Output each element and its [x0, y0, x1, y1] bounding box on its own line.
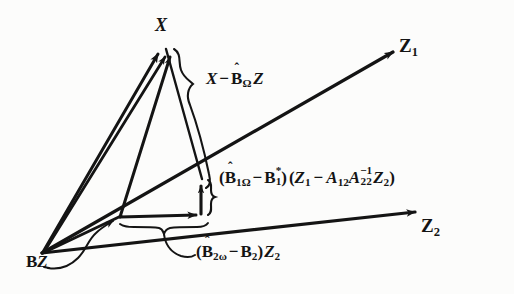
- p1-beta1-sub: 1Ω: [236, 176, 251, 188]
- label-origin-bz: BZ: [26, 253, 48, 270]
- z2-projection-brace: [120, 223, 208, 234]
- p2-minus: −: [229, 242, 239, 261]
- p1-a22: A: [349, 168, 360, 187]
- apex-x-text: X: [155, 15, 167, 35]
- residual-z: Z: [253, 69, 263, 88]
- p1-a22-supsub: −122: [360, 165, 372, 186]
- p1-minus: −: [253, 168, 263, 187]
- axis-z2-text: Z: [421, 215, 434, 236]
- edge-x-to-z1foot: [166, 49, 202, 179]
- p1-beta2: B: [264, 168, 275, 187]
- p1-a22-sub: 22: [360, 176, 372, 187]
- label-z2-projection: (ˆB2ω−B2)Z2: [196, 243, 280, 263]
- p2-z: Z: [264, 242, 274, 261]
- origin-z-text: Z: [37, 252, 47, 271]
- p2-beta2: B: [241, 242, 252, 261]
- p1-close-paren-2: ): [389, 168, 395, 187]
- p2-beta1-hat-group: ˆB: [202, 243, 213, 260]
- axis-z2-subscript: 2: [434, 225, 440, 239]
- residual-beta-hat-group: ˆB: [231, 70, 242, 87]
- p2-close-paren: ): [257, 242, 263, 261]
- axis-z1-subscript: 1: [412, 45, 418, 59]
- label-axis-z1: Z1: [399, 36, 418, 58]
- p1-minus-2: −: [314, 168, 324, 187]
- label-z1-projection: (ˆB1Ω−B*1)(Z1−A12A−122Z2): [219, 165, 395, 188]
- hat-accent-icon: ˆ: [234, 62, 239, 76]
- p2-z-sub: 2: [275, 250, 281, 262]
- residual-minus: −: [219, 69, 229, 88]
- origin-b-text: B: [26, 252, 37, 271]
- vector-decomposition-figure: X Z1 Z2 BZ X−ˆBΩZ (ˆB1Ω−B*1)(Z1−A12A−122…: [0, 0, 514, 294]
- label-axis-z2: Z2: [421, 216, 440, 238]
- p1-z2: Z: [373, 168, 383, 187]
- hat-accent-icon: ˆ: [228, 161, 233, 175]
- p1-a12: A: [326, 168, 337, 187]
- p2-beta1-sub: 2ω: [213, 250, 227, 262]
- label-residual: X−ˆBΩZ: [206, 70, 264, 90]
- axis-z1-text: Z: [399, 35, 412, 56]
- hat-accent-icon: ˆ: [205, 235, 210, 249]
- p1-beta1-hat-group: ˆB: [225, 169, 236, 186]
- label-apex-x: X: [155, 16, 167, 34]
- p1-a12-sub: 12: [338, 176, 349, 188]
- p1-z1-sub: 1: [305, 176, 311, 188]
- residual-omega: Ω: [242, 77, 251, 89]
- p1-close-paren: ): [281, 168, 287, 187]
- residual-x: X: [206, 69, 217, 88]
- vector-corner-horizontal: [120, 215, 196, 217]
- p1-z1: Z: [295, 168, 305, 187]
